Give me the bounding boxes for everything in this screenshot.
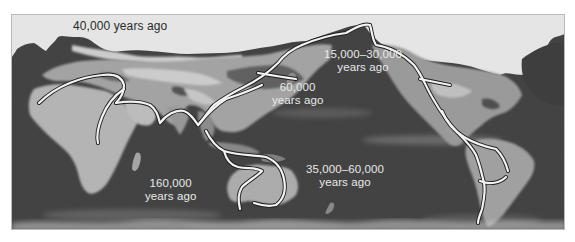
label-35000-60000-years: 35,000–60,000 years ago xyxy=(306,163,384,189)
label-15000-30000-line1: 15,000–30,000 xyxy=(324,48,402,61)
label-40000-line1: 40,000 years ago xyxy=(73,20,167,33)
label-15000-30000-line2: years ago xyxy=(324,61,402,74)
figure: 40,000 years ago 60,000 years ago 15,000… xyxy=(0,0,575,242)
label-160000-years: 160,000 years ago xyxy=(145,177,196,203)
label-60000-years: 60,000 years ago xyxy=(272,81,323,107)
label-160000-line1: 160,000 xyxy=(145,177,196,190)
map-graphic xyxy=(12,15,565,230)
label-60000-line1: 60,000 xyxy=(272,81,323,94)
label-35000-60000-line1: 35,000–60,000 xyxy=(306,163,384,176)
label-40000-years: 40,000 years ago xyxy=(73,20,167,33)
label-15000-30000-years: 15,000–30,000 years ago xyxy=(324,48,402,74)
label-60000-line2: years ago xyxy=(272,94,323,107)
world-map: 40,000 years ago 60,000 years ago 15,000… xyxy=(11,14,565,230)
label-35000-60000-line2: years ago xyxy=(306,176,384,189)
label-160000-line2: years ago xyxy=(145,190,196,203)
